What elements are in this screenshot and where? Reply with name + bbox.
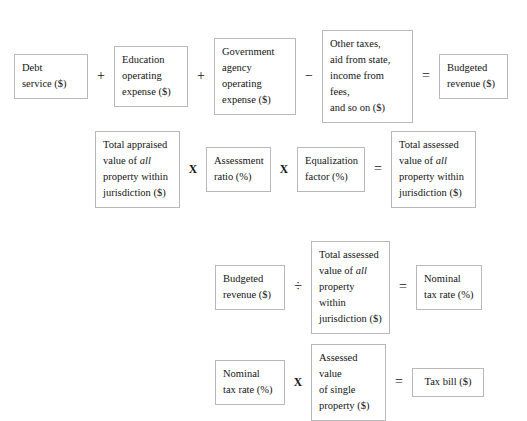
times-operator: X: [285, 377, 311, 389]
equalization-factor-box: Equalization factor (%): [297, 147, 365, 192]
line-3: property within: [103, 171, 168, 182]
budgeted-revenue-box: Budgeted revenue ($): [215, 265, 285, 310]
education-operating-expense-box: Education operating expense ($): [114, 46, 188, 107]
equals-operator: =: [413, 69, 439, 83]
budgeted-revenue-result-box: Budgeted revenue ($): [439, 54, 508, 99]
total-assessed-value-result-box: Total assessed value of all property wit…: [391, 131, 476, 208]
assessment-ratio-box: Assessment ratio (%): [206, 147, 271, 192]
tax-bill-result-box: Tax bill ($): [412, 368, 484, 397]
plus-operator: +: [88, 69, 114, 83]
total-assessed-value-equation-row: Total appraised value of all property wi…: [95, 131, 476, 208]
plus-operator: +: [188, 69, 214, 83]
other-taxes-aid-box: Other taxes, aid from state, income from…: [322, 30, 413, 123]
line-2-emphasis: all: [140, 155, 151, 166]
nominal-tax-rate-result-box: Nominal tax rate (%): [416, 265, 482, 310]
equals-operator: =: [365, 162, 391, 176]
line-2-prefix: value of: [399, 155, 436, 166]
equals-operator: =: [386, 375, 412, 389]
assessed-value-single-property-box: Assessed value of single property ($): [311, 344, 386, 421]
debt-service-box: Debt service ($): [14, 54, 88, 99]
line-2-prefix: value of: [319, 265, 356, 276]
nominal-tax-rate-box: Nominal tax rate (%): [215, 360, 285, 405]
line-4: jurisdiction ($): [319, 313, 382, 324]
line-4: jurisdiction ($): [399, 187, 462, 198]
government-agency-operating-expense-box: Government agency operating expense ($): [214, 38, 296, 115]
line-4: jurisdiction ($): [103, 187, 166, 198]
times-operator: X: [180, 164, 206, 176]
line-3: property within: [319, 281, 355, 308]
line-2-prefix: value of: [103, 155, 140, 166]
total-assessed-value-box: Total assessed value of all property wit…: [311, 241, 390, 334]
line-2-emphasis: all: [356, 265, 367, 276]
total-appraised-value-box: Total appraised value of all property wi…: [95, 131, 180, 208]
tax-bill-equation-row: Nominal tax rate (%) X Assessed value of…: [215, 344, 484, 421]
line-1: Total assessed: [319, 249, 379, 260]
line-2-emphasis: all: [436, 155, 447, 166]
times-operator: X: [271, 164, 297, 176]
divide-operator: ÷: [285, 280, 311, 294]
line-1: Total assessed: [399, 139, 459, 150]
line-1: Total appraised: [103, 139, 167, 150]
nominal-tax-rate-equation-row: Budgeted revenue ($) ÷ Total assessed va…: [215, 241, 482, 334]
budgeted-revenue-equation-row: Debt service ($) + Education operating e…: [14, 30, 508, 123]
equals-operator: =: [390, 280, 416, 294]
line-3: property within: [399, 171, 464, 182]
minus-operator: −: [296, 69, 322, 83]
